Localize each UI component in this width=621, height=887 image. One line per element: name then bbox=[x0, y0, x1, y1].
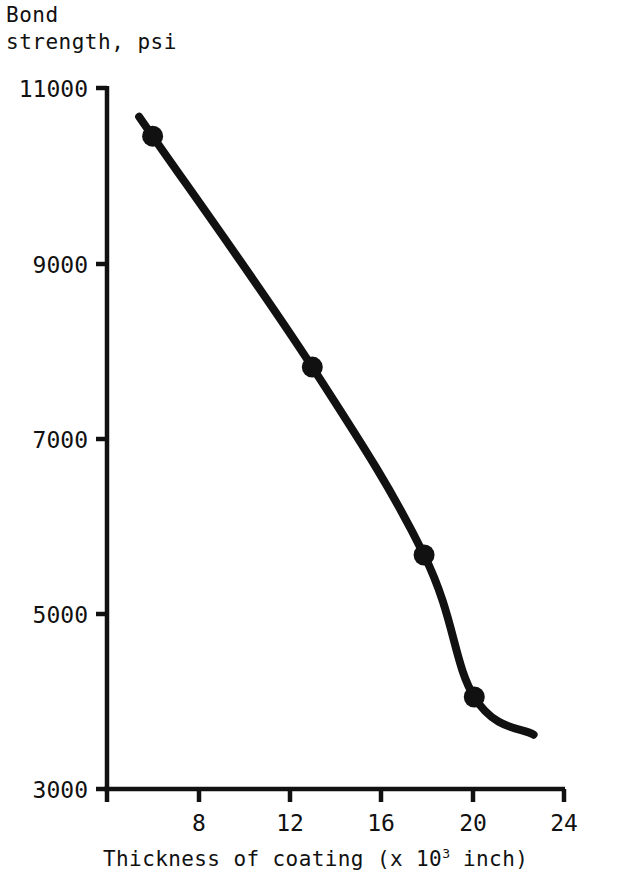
x-axis-title-exponent: 3 bbox=[442, 846, 450, 861]
x-tick-label-16: 16 bbox=[367, 810, 395, 836]
x-axis-title-prefix: Thickness of coating (x 10 bbox=[103, 847, 442, 871]
data-curve-path bbox=[139, 117, 533, 735]
data-point-marker bbox=[142, 126, 163, 147]
chart-figure: Bondstrength, psi 11000 9000 7000 5000 3… bbox=[0, 0, 621, 887]
y-tick-label-9000: 9000 bbox=[33, 252, 88, 278]
y-tick-label-11000: 11000 bbox=[19, 76, 88, 102]
y-tick-label-7000: 7000 bbox=[33, 427, 88, 453]
x-tick-label-8: 8 bbox=[192, 810, 206, 836]
data-point-marker bbox=[302, 357, 323, 378]
x-axis-title-suffix: inch) bbox=[450, 847, 528, 871]
data-curve bbox=[139, 117, 533, 735]
y-tick-label-5000: 5000 bbox=[33, 602, 88, 628]
data-point-markers bbox=[142, 126, 485, 708]
y-tick-label-3000: 3000 bbox=[33, 777, 88, 803]
x-tick-label-20: 20 bbox=[459, 810, 487, 836]
x-tick-label-24: 24 bbox=[550, 810, 578, 836]
chart-plot-area: 11000 9000 7000 5000 3000 8 12 16 20 24 bbox=[0, 0, 621, 887]
data-point-marker bbox=[464, 686, 485, 707]
x-axis-title: Thickness of coating (x 103 inch) bbox=[103, 846, 528, 871]
x-tick-label-12: 12 bbox=[276, 810, 304, 836]
data-point-marker bbox=[414, 545, 435, 566]
